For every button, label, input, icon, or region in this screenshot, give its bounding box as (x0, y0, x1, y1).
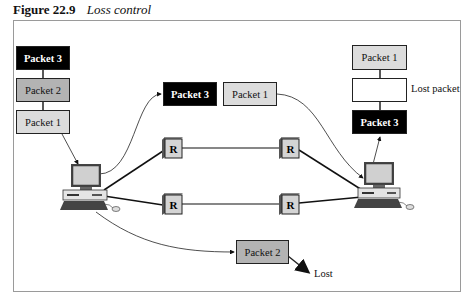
lost-label: Lost (314, 268, 333, 279)
arrow-lost (288, 256, 308, 272)
router-icon: R (279, 193, 299, 214)
sender-computer-icon (60, 164, 120, 212)
sender-packet-1: Packet 1 (16, 110, 70, 134)
svg-text:R: R (287, 199, 296, 211)
transit-packet-2: Packet 2 (236, 240, 289, 264)
arrow-packet1-to-receiver (277, 94, 363, 178)
sender-packet-2: Packet 2 (16, 78, 70, 102)
router-icon: R (162, 137, 182, 158)
receiver-packet-3: Packet 3 (352, 110, 407, 134)
arrow-stack-to-sender (62, 134, 78, 164)
arrow-to-packet2 (96, 212, 234, 252)
router-icon: R (162, 193, 182, 214)
lost-packet-label: Lost packet (411, 83, 460, 94)
arrow-to-packet3 (99, 94, 161, 174)
sender-packet-3: Packet 3 (16, 46, 70, 70)
svg-text:R: R (170, 143, 179, 155)
svg-text:R: R (287, 143, 296, 155)
receiver-packet-1: Packet 1 (352, 45, 407, 70)
receiver-lost-slot (352, 78, 407, 102)
transit-packet-1: Packet 1 (223, 82, 277, 106)
receiver-computer-icon (354, 162, 414, 210)
svg-text:R: R (170, 199, 179, 211)
transit-packet-3: Packet 3 (163, 82, 217, 106)
router-icon: R (279, 137, 299, 158)
